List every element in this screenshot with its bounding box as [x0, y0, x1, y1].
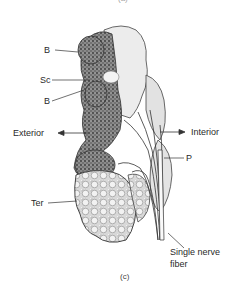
b-cluster-upper [78, 36, 104, 64]
nerve-ending-illustration [0, 0, 233, 285]
b-cluster-lower [85, 81, 107, 107]
label-single-nerve: Single nerve [170, 247, 220, 257]
figure-caption: (c) [120, 272, 129, 281]
label-interior: Interior [191, 127, 219, 137]
light-lobe-right [146, 75, 165, 140]
label-b-lower: B [44, 96, 50, 106]
label-fiber: fiber [170, 259, 188, 269]
label-exterior: Exterior [13, 128, 44, 138]
label-ter: Ter [31, 198, 44, 208]
sc-pale-spot [103, 71, 119, 83]
label-b-upper: B [44, 45, 50, 55]
label-sc: Sc [40, 75, 51, 85]
ter-bubbly-lobe [75, 171, 137, 243]
label-p: P [186, 153, 192, 163]
